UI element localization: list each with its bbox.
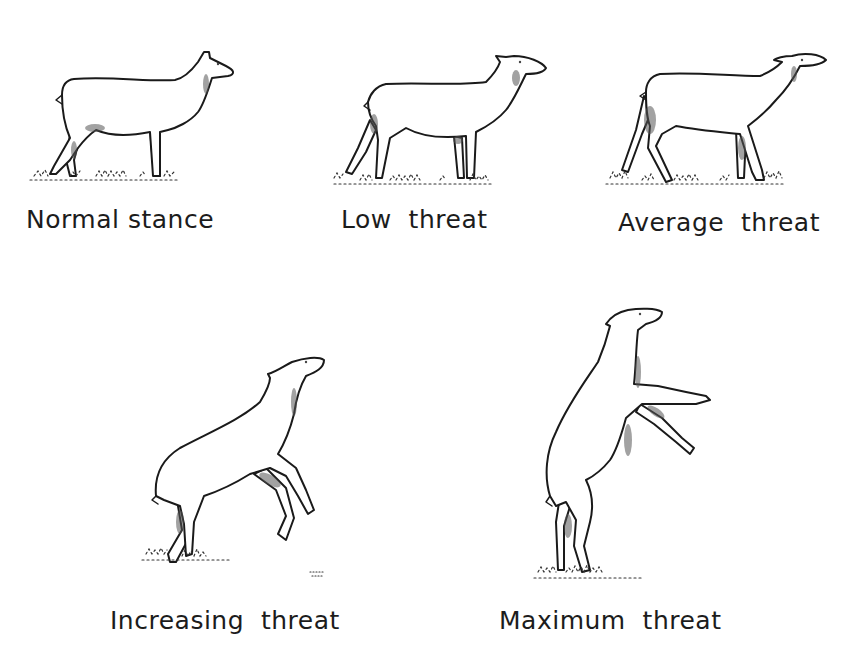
label-maximum-threat: Maximum threat	[499, 606, 721, 635]
panel-normal-stance: Normal stance	[0, 0, 290, 250]
elk-normal-stance-drawing	[0, 0, 290, 200]
label-average-threat: Average threat	[618, 208, 820, 237]
panel-low-threat: Low threat	[320, 40, 560, 250]
elk-maximum-threat-drawing	[490, 300, 740, 590]
panel-increasing-threat: Increasing threat	[100, 340, 380, 640]
label-normal-stance: Normal stance	[26, 205, 214, 234]
panel-average-threat: Average threat	[580, 30, 861, 250]
panel-maximum-threat: Maximum threat	[490, 300, 740, 640]
label-increasing-threat: Increasing threat	[110, 606, 340, 635]
elk-average-threat-drawing	[580, 30, 861, 200]
elk-low-threat-drawing	[320, 40, 560, 190]
label-low-threat: Low threat	[341, 205, 488, 234]
elk-increasing-threat-drawing	[100, 340, 380, 590]
